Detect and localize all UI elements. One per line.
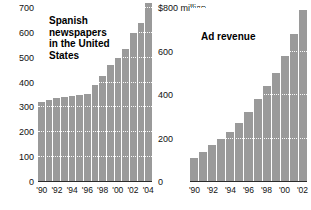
- bar: [115, 58, 123, 182]
- y-tick-label: 0: [29, 178, 34, 187]
- bar: [92, 85, 100, 182]
- x-tick-label: '96: [243, 184, 254, 196]
- bar: [107, 65, 115, 182]
- x-tick-label: '96: [82, 184, 93, 196]
- gridline: [38, 7, 152, 8]
- x-axis-line-left: [38, 181, 152, 182]
- chart-title-left: Spanish newspapers in the United States: [49, 15, 123, 61]
- bar: [235, 123, 244, 182]
- gridline: [190, 51, 307, 52]
- bar: [190, 158, 199, 182]
- x-tick-label: '98: [261, 184, 272, 196]
- x-tick-label: '04: [143, 184, 154, 196]
- x-tick-label: '90: [189, 184, 200, 196]
- y-tick-label: 600: [158, 47, 173, 56]
- gridline: [38, 131, 152, 132]
- x-tick-label: '94: [225, 184, 236, 196]
- bar: [138, 23, 146, 182]
- bar: [46, 100, 54, 182]
- bar: [226, 132, 235, 182]
- gridline: [190, 7, 307, 8]
- x-tick-label: '00: [112, 184, 123, 196]
- figure-container: 0100200300400500600700 '90'92'94'96'98'0…: [0, 0, 311, 210]
- x-axis-line-right: [190, 181, 307, 182]
- bar: [299, 10, 307, 182]
- x-axis-right: '90'92'94'96'98'00'02: [190, 184, 307, 198]
- y-tick-label: 100: [19, 153, 34, 162]
- bar: [244, 112, 253, 182]
- y-tick-label: 400: [19, 78, 34, 87]
- bar: [272, 73, 281, 182]
- y-tick-label: 0: [158, 178, 163, 187]
- x-tick-label: '98: [97, 184, 108, 196]
- y-tick-label: 200: [158, 134, 173, 143]
- gridline: [190, 138, 307, 139]
- y-tick-label: 500: [19, 53, 34, 62]
- x-tick-label: '92: [207, 184, 218, 196]
- bar: [53, 98, 61, 182]
- bar: [38, 102, 46, 182]
- y-axis-left: 0100200300400500600700: [0, 8, 34, 182]
- bar: [281, 56, 290, 182]
- x-tick-label: '02: [297, 184, 308, 196]
- bar: [61, 97, 69, 183]
- y-axis-right: 0200400600$800 million: [158, 8, 190, 182]
- bar: [263, 86, 272, 182]
- bar: [76, 95, 84, 182]
- gridline: [38, 156, 152, 157]
- y-tick-label: 200: [19, 128, 34, 137]
- bar: [145, 3, 152, 182]
- bar: [122, 49, 130, 182]
- bar: [217, 139, 226, 182]
- x-tick-label: '00: [279, 184, 290, 196]
- y-tick-label: 400: [158, 91, 173, 100]
- gridline: [38, 82, 152, 83]
- bar: [199, 152, 208, 182]
- x-axis-left: '90'92'94'96'98'00'02'04: [38, 184, 152, 198]
- x-tick-label: '92: [51, 184, 62, 196]
- bar: [69, 96, 77, 183]
- x-tick-label: '94: [67, 184, 78, 196]
- gridline: [190, 94, 307, 95]
- bar: [99, 76, 107, 182]
- chart-title-right: Ad revenue: [201, 31, 281, 43]
- bar: [290, 34, 299, 182]
- chart-panel-spanish-newspapers: 0100200300400500600700 '90'92'94'96'98'0…: [0, 0, 156, 210]
- bar: [254, 99, 263, 182]
- x-tick-label: '02: [127, 184, 138, 196]
- gridline: [38, 106, 152, 107]
- x-tick-label: '90: [36, 184, 47, 196]
- y-tick-label: 600: [19, 28, 34, 37]
- bar: [208, 145, 217, 182]
- y-tick-label: 300: [19, 103, 34, 112]
- y-tick-label: 700: [19, 4, 34, 13]
